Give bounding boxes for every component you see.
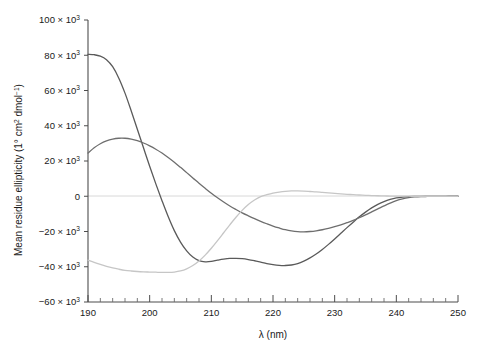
y-tick-label: 80 × 103 [44,49,80,61]
x-tick-label: 200 [142,307,158,318]
x-axis-major-ticks [88,295,458,302]
y-tick-label: −40 × 103 [39,261,81,273]
x-tick-label: 240 [388,307,404,318]
x-tick-label: 230 [327,307,343,318]
chart-canvas: 100 × 10380 × 10360 × 10340 × 10320 × 10… [0,0,483,349]
data-series-group [88,54,458,272]
y-tick-label: −60 × 103 [39,296,81,308]
y-tick-label: −20 × 103 [39,225,81,237]
x-tick-label: 210 [203,307,219,318]
y-axis-title: Mean residue ellipticity (1° cm2 dmol−1) [13,84,25,256]
y-axis-tick-labels: 100 × 10380 × 10360 × 10340 × 10320 × 10… [39,14,81,308]
series-line-curve-mixed [88,138,458,232]
y-tick-label: 20 × 103 [44,155,80,167]
y-tick-label: 0 [75,191,80,202]
series-line-curve-alpha-helix [88,54,458,265]
y-tick-label: 100 × 103 [39,14,80,26]
y-tick-label: 40 × 103 [44,120,80,132]
x-tick-label: 220 [265,307,281,318]
x-axis-tick-labels: 190200210220230240250 [80,307,466,318]
cd-spectrum-figure: 100 × 10380 × 10360 × 10340 × 10320 × 10… [0,0,483,349]
y-tick-label: 60 × 103 [44,84,80,96]
x-tick-label: 250 [450,307,466,318]
x-tick-label: 190 [80,307,96,318]
y-axis-ticks [84,20,88,302]
x-axis-title: λ (nm) [259,329,287,340]
series-line-curve-beta-sheet [88,191,458,272]
